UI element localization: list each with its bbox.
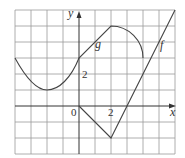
x-tick-label-2: 2 xyxy=(108,106,114,118)
function-graph: y x 0 2 2 g f xyxy=(0,0,185,158)
y-axis xyxy=(77,11,82,154)
curve-f-label: f xyxy=(160,38,165,52)
curve-g-label: g xyxy=(95,37,101,51)
y-axis-arrow-icon xyxy=(77,11,82,18)
x-axis-label: x xyxy=(169,105,176,119)
x-axis xyxy=(15,104,176,109)
y-axis-label: y xyxy=(67,6,74,20)
y-tick-label-2: 2 xyxy=(82,68,88,80)
grid xyxy=(15,10,175,154)
origin-label: 0 xyxy=(71,106,77,118)
